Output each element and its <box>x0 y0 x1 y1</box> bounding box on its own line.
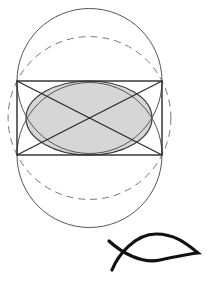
geometry-diagram <box>0 0 212 285</box>
ichthys-fish-icon <box>109 234 198 270</box>
